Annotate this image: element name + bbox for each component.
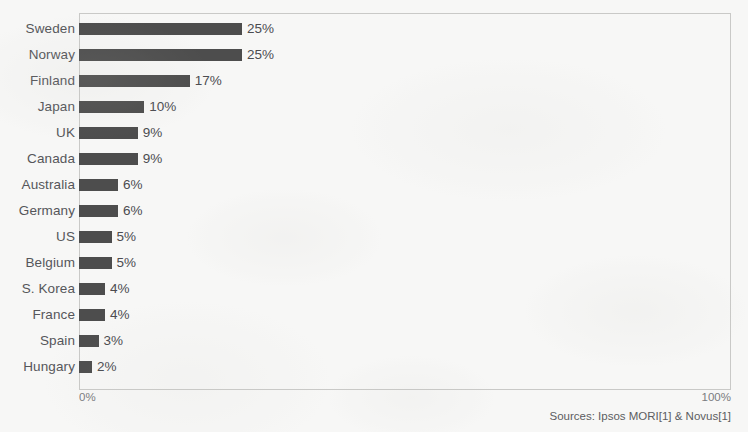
bar-row: Sweden25% — [0, 16, 748, 42]
bar-row: Germany6% — [0, 198, 748, 224]
bar-track: 17% — [79, 75, 222, 87]
bar-value-label: 9% — [143, 126, 163, 140]
bar — [79, 153, 138, 165]
bar-category-label: Spain — [0, 334, 75, 348]
bar-value-label: 10% — [149, 100, 176, 114]
bar — [79, 101, 144, 113]
bar-row: Hungary2% — [0, 354, 748, 380]
bar-track: 25% — [79, 23, 274, 35]
bar-value-label: 25% — [247, 48, 274, 62]
bar — [79, 335, 99, 347]
bar-row: France4% — [0, 302, 748, 328]
bar-row: Belgium5% — [0, 250, 748, 276]
bar — [79, 205, 118, 217]
bar-value-label: 4% — [110, 308, 130, 322]
x-axis-tick-min: 0% — [79, 392, 96, 404]
bar-track: 3% — [79, 335, 123, 347]
bar-category-label: Belgium — [0, 256, 75, 270]
bar-track: 10% — [79, 101, 176, 113]
bar-row: Finland17% — [0, 68, 748, 94]
bar-row: US5% — [0, 224, 748, 250]
bar-row: Norway25% — [0, 42, 748, 68]
bar-track: 9% — [79, 127, 162, 139]
x-axis-tick-max: 100% — [631, 392, 731, 404]
bar — [79, 283, 105, 295]
bar-value-label: 6% — [123, 204, 143, 218]
bar — [79, 75, 190, 87]
bar-track: 6% — [79, 179, 143, 191]
bar-row: S. Korea4% — [0, 276, 748, 302]
bar-value-label: 2% — [97, 360, 117, 374]
bar-category-label: Japan — [0, 100, 75, 114]
bar-category-label: Australia — [0, 178, 75, 192]
bar — [79, 257, 112, 269]
bar — [79, 23, 242, 35]
horizontal-bar-chart: Sweden25%Norway25%Finland17%Japan10%UK9%… — [0, 0, 748, 432]
bar-value-label: 25% — [247, 22, 274, 36]
bar-track: 5% — [79, 257, 136, 269]
bar — [79, 127, 138, 139]
bar-row: UK9% — [0, 120, 748, 146]
bar — [79, 231, 112, 243]
bar-category-label: Canada — [0, 152, 75, 166]
bar-track: 4% — [79, 309, 130, 321]
sources-note: Sources: Ipsos MORI[1] & Novus[1] — [431, 411, 731, 423]
bar-category-label: UK — [0, 126, 75, 140]
bar-category-label: Germany — [0, 204, 75, 218]
bar-track: 9% — [79, 153, 162, 165]
bar-track: 6% — [79, 205, 143, 217]
bar-value-label: 4% — [110, 282, 130, 296]
bar-value-label: 17% — [195, 74, 222, 88]
bar-category-label: Norway — [0, 48, 75, 62]
bar — [79, 179, 118, 191]
bar-row: Spain3% — [0, 328, 748, 354]
bar-value-label: 9% — [143, 152, 163, 166]
bar-row-list: Sweden25%Norway25%Finland17%Japan10%UK9%… — [0, 13, 748, 390]
bar-track: 2% — [79, 361, 117, 373]
bar-category-label: France — [0, 308, 75, 322]
bar-value-label: 3% — [104, 334, 124, 348]
bar-track: 5% — [79, 231, 136, 243]
bar-value-label: 5% — [117, 230, 137, 244]
bar-category-label: Finland — [0, 74, 75, 88]
bar — [79, 361, 92, 373]
bar-track: 25% — [79, 49, 274, 61]
bar-category-label: Hungary — [0, 360, 75, 374]
bar — [79, 309, 105, 321]
bar-category-label: Sweden — [0, 22, 75, 36]
bar-row: Australia6% — [0, 172, 748, 198]
bar-row: Japan10% — [0, 94, 748, 120]
bar — [79, 49, 242, 61]
bar-value-label: 6% — [123, 178, 143, 192]
bar-value-label: 5% — [117, 256, 137, 270]
bar-row: Canada9% — [0, 146, 748, 172]
bar-category-label: US — [0, 230, 75, 244]
bar-track: 4% — [79, 283, 130, 295]
bar-category-label: S. Korea — [0, 282, 75, 296]
